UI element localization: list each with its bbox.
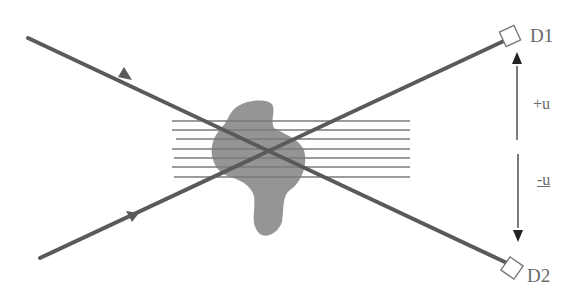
beam-direction-arrow-icon [118, 67, 132, 80]
diagram-canvas [0, 0, 584, 305]
velocity-minus-label: -u [537, 172, 550, 188]
arrow-up-icon [512, 52, 522, 64]
detector-d1-label: D1 [530, 26, 553, 45]
detector-d2-label: D2 [527, 266, 550, 285]
arrow-down-icon [513, 230, 523, 242]
velocity-plus-label: +u [533, 96, 550, 112]
